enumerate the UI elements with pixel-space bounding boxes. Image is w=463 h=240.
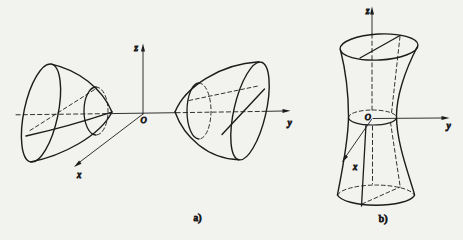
b-bottom-mouth-back bbox=[338, 185, 415, 195]
a-right-hidden-trace bbox=[189, 86, 258, 101]
b-z-axis bbox=[372, 13, 373, 184]
a-x-axis bbox=[80, 114, 143, 162]
a-y-axis-label: y bbox=[286, 118, 292, 128]
a-origin-label: O bbox=[140, 115, 146, 125]
a-z-axis-label: z bbox=[133, 43, 138, 53]
b-caption: b) bbox=[379, 213, 388, 225]
b-y-axis bbox=[373, 118, 442, 119]
b-front-generator bbox=[362, 125, 367, 206]
a-z-arrowhead bbox=[141, 44, 145, 52]
b-z-axis-label: z bbox=[365, 6, 370, 16]
b-top-mouth-chord bbox=[360, 36, 400, 59]
a-left-hidden-trace bbox=[30, 88, 97, 131]
b-origin-label: O bbox=[365, 112, 371, 122]
b-hourglass-surface bbox=[338, 32, 419, 206]
a-left-front-trace bbox=[26, 112, 111, 136]
b-y-axis-label: y bbox=[445, 121, 451, 131]
b-left-silhouette bbox=[338, 50, 349, 195]
a-caption: a) bbox=[193, 212, 202, 224]
b-right-silhouette bbox=[397, 47, 418, 195]
a-left-section-ellipse-front bbox=[84, 87, 96, 135]
b-z-arrowhead bbox=[370, 7, 374, 15]
a-right-bowl bbox=[175, 59, 277, 164]
a-right-lower-profile bbox=[175, 112, 239, 160]
quadric-surfaces-figure: z y x O a) bbox=[0, 0, 463, 240]
a-left-bowl bbox=[14, 61, 112, 166]
b-back-generator-lower bbox=[391, 122, 401, 185]
a-x-axis-label: x bbox=[76, 170, 82, 180]
panel-a-hyperboloid-two-sheets: z y x O a) bbox=[14, 43, 292, 224]
b-bottom-mouth-chord bbox=[362, 187, 400, 204]
a-y-arrowhead bbox=[283, 109, 291, 113]
b-waist-ellipse-back bbox=[349, 110, 397, 117]
b-back-generator-upper bbox=[392, 37, 401, 114]
panel-b-hyperboloid-one-sheet: z y x O b) bbox=[338, 6, 452, 225]
b-bottom-mouth-front bbox=[338, 195, 415, 205]
b-x-axis-label: x bbox=[352, 162, 358, 172]
a-right-section-ellipse-back bbox=[199, 83, 211, 139]
textbook-figure-scan: z y x O a) bbox=[0, 0, 463, 240]
b-y-arrowhead bbox=[442, 116, 450, 120]
a-left-mouth-ellipse bbox=[14, 61, 68, 166]
